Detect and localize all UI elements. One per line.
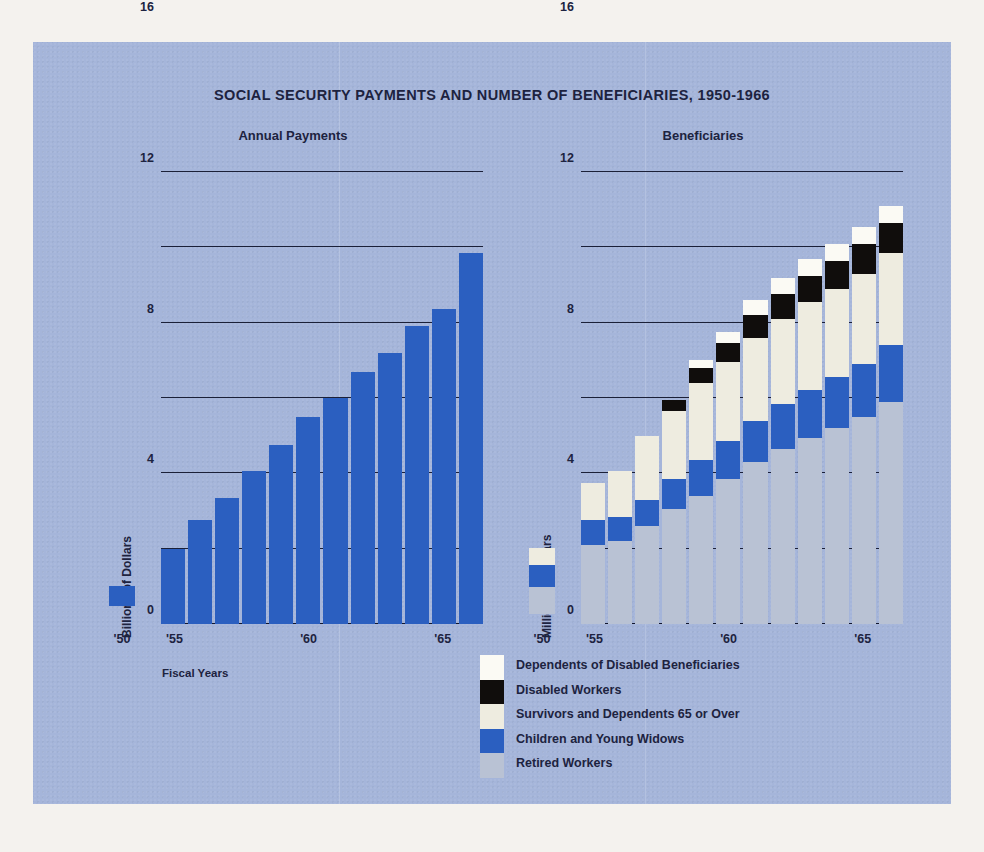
segment-dependents-of-disabled-beneficiaries-1961: [743, 300, 767, 315]
segment-survivors-and-dependents-65-or-over-1957: [635, 436, 659, 500]
bar-slot-1958: [242, 172, 266, 624]
segment-survivors-and-dependents-65-or-over-1959: [689, 383, 713, 460]
right-x-tick-55: '55: [586, 632, 603, 646]
legend-label-0: Dependents of Disabled Beneficiaries: [516, 653, 740, 678]
left-x-tick-65: '65: [434, 632, 451, 646]
segment-dependents-of-disabled-beneficiaries-1959: [689, 360, 713, 368]
bar-slot-1964: [825, 172, 849, 624]
marker-segment-survivors-and-dependents-65-or-over-1950: [529, 548, 555, 564]
segment-retired-workers-1963: [798, 438, 822, 624]
segment-survivors-and-dependents-65-or-over-1956: [608, 471, 632, 516]
legend-label-3: Children and Young Widows: [516, 727, 740, 752]
left-x-tick-55: '55: [166, 632, 183, 646]
segment-dependents-of-disabled-beneficiaries-1963: [798, 259, 822, 276]
bar-1955: [161, 549, 185, 624]
segment-dependents-of-disabled-beneficiaries-1964: [825, 244, 849, 261]
bar-slot-1964: [405, 172, 429, 624]
bar-slot-1957: [635, 172, 659, 624]
segment-disabled-workers-1961: [743, 315, 767, 338]
bar-1957: [215, 498, 239, 624]
bar-1962: [351, 372, 375, 624]
annual-payments-chart: 04812162024: [161, 172, 483, 624]
bar-1956: [188, 520, 212, 624]
segment-retired-workers-1960: [716, 479, 740, 624]
left-y-tick-4: 4: [147, 452, 154, 466]
left-bar-series: [161, 172, 483, 624]
segment-children-and-young-widows-1956: [608, 517, 632, 541]
marker-segment-children-and-young-widows-1950: [529, 565, 555, 587]
stacked-bar-1966: [879, 206, 903, 624]
segment-retired-workers-1964: [825, 428, 849, 624]
legend-label-2: Survivors and Dependents 65 or Over: [516, 702, 740, 727]
segment-retired-workers-1961: [743, 462, 767, 624]
segment-children-and-young-widows-1959: [689, 460, 713, 496]
segment-children-and-young-widows-1962: [771, 404, 795, 449]
bar-slot-1966: [879, 172, 903, 624]
bar-slot-1959: [689, 172, 713, 624]
segment-children-and-young-widows-1957: [635, 500, 659, 526]
stacked-bar-1958: [662, 400, 686, 624]
marker-segment-payments-1950: [109, 586, 135, 606]
right-y-tick-0: 0: [567, 603, 574, 617]
segment-survivors-and-dependents-65-or-over-1958: [662, 411, 686, 479]
bar-1963: [378, 353, 402, 624]
left-y-tick-8: 8: [147, 302, 154, 316]
stacked-bar-1964: [825, 244, 849, 624]
stacked-bar-1961: [743, 300, 767, 624]
right-y-tick-12: 12: [560, 151, 574, 165]
bar-1959: [269, 445, 293, 624]
bar-slot-1961: [323, 172, 347, 624]
segment-children-and-young-widows-1963: [798, 390, 822, 437]
segment-retired-workers-1959: [689, 496, 713, 624]
legend-label-4: Retired Workers: [516, 751, 740, 776]
legend-swatch-3: [480, 729, 504, 754]
bar-1960: [296, 417, 320, 624]
segment-disabled-workers-1960: [716, 343, 740, 362]
bar-slot-1957: [215, 172, 239, 624]
right-1950-marker: [529, 548, 555, 614]
bar-slot-1958: [662, 172, 686, 624]
bar-slot-1962: [771, 172, 795, 624]
right-x-tick-65: '65: [854, 632, 871, 646]
legend-swatch-1: [480, 680, 504, 705]
segment-children-and-young-widows-1965: [852, 364, 876, 417]
left-x-axis-caption: Fiscal Years: [162, 667, 228, 679]
bar-slot-1965: [852, 172, 876, 624]
bar-slot-1959: [269, 172, 293, 624]
segment-dependents-of-disabled-beneficiaries-1966: [879, 206, 903, 223]
stacked-bar-1955: [581, 483, 605, 624]
left-1950-marker: [109, 586, 135, 606]
segment-survivors-and-dependents-65-or-over-1966: [879, 253, 903, 345]
right-chart-subtitle: Beneficiaries: [558, 128, 848, 143]
right-y-tick-4: 4: [567, 452, 574, 466]
legend-label-1: Disabled Workers: [516, 678, 740, 703]
segment-disabled-workers-1962: [771, 294, 795, 318]
bar-slot-1955: [161, 172, 185, 624]
right-x-tick-60: '60: [720, 632, 737, 646]
segment-survivors-and-dependents-65-or-over-1955: [581, 483, 605, 521]
bar-slot-1961: [743, 172, 767, 624]
segment-disabled-workers-1965: [852, 244, 876, 274]
segment-retired-workers-1965: [852, 417, 876, 624]
segment-children-and-young-widows-1964: [825, 377, 849, 428]
left-y-tick-0: 0: [147, 603, 154, 617]
stacked-bar-1956: [608, 471, 632, 624]
bar-slot-1960: [296, 172, 320, 624]
right-bar-series: [581, 172, 903, 624]
left-1950-tick: '50: [114, 632, 131, 646]
segment-dependents-of-disabled-beneficiaries-1965: [852, 227, 876, 244]
segment-disabled-workers-1959: [689, 368, 713, 383]
segment-survivors-and-dependents-65-or-over-1965: [852, 274, 876, 364]
bar-1961: [323, 398, 347, 624]
segment-retired-workers-1958: [662, 509, 686, 624]
segment-survivors-and-dependents-65-or-over-1963: [798, 302, 822, 391]
segment-children-and-young-widows-1966: [879, 345, 903, 402]
bar-slot-1955: [581, 172, 605, 624]
poster-page: SOCIAL SECURITY PAYMENTS AND NUMBER OF B…: [0, 0, 984, 852]
legend-swatch-0: [480, 655, 504, 680]
bar-slot-1956: [608, 172, 632, 624]
segment-disabled-workers-1958: [662, 400, 686, 411]
segment-retired-workers-1955: [581, 545, 605, 624]
segment-disabled-workers-1963: [798, 276, 822, 302]
left-y-tick-16: 16: [140, 0, 154, 14]
